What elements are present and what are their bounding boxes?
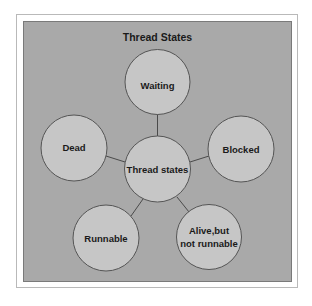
node-dead: Dead [41,115,107,181]
node-blocked: Blocked [208,116,274,182]
node-waiting-label: Waiting [141,80,175,91]
thread-states-diagram: Thread States Waiting Dead Blocked Threa… [0,0,312,306]
node-thread-states-center: Thread states [125,136,191,202]
edge-center-alive-not-runnable [177,197,189,212]
node-alive-label-line2: not runnable [180,238,238,249]
node-dead-label: Dead [62,142,85,153]
node-alive-not-runnable-circle [177,205,242,270]
node-alive-label-line1: Alive,but [189,225,230,236]
node-runnable: Runnable [73,205,139,271]
edge-center-dead [106,156,125,162]
edge-center-blocked [190,156,209,162]
node-waiting: Waiting [125,50,190,115]
edge-center-runnable [131,199,143,216]
node-blocked-label: Blocked [223,144,260,155]
node-alive-not-runnable: Alive,but not runnable [177,205,242,270]
node-runnable-label: Runnable [84,233,127,244]
node-center-label: Thread states [127,164,189,175]
diagram-title: Thread States [123,31,193,43]
